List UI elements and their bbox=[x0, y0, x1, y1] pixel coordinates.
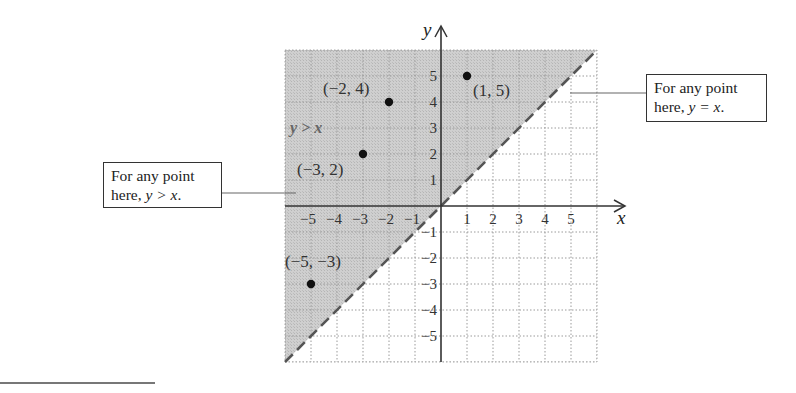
point-label: (−5, −3) bbox=[285, 252, 341, 271]
y-tick-label: 3 bbox=[430, 120, 438, 136]
point-marker bbox=[463, 72, 471, 80]
x-tick-label: 5 bbox=[567, 211, 575, 227]
callout-left-line2: here, y > x. bbox=[111, 185, 215, 204]
callout-box-y-equals-x: For any point here, y = x. bbox=[646, 74, 767, 122]
y-tick-label: 2 bbox=[430, 146, 438, 162]
x-tick-label: 3 bbox=[515, 211, 523, 227]
callout-left-suffix: . bbox=[177, 186, 181, 203]
y-tick-label: −4 bbox=[421, 302, 437, 318]
x-tick-label: −2 bbox=[378, 211, 394, 227]
callout-right-prefix: here, bbox=[654, 98, 688, 115]
y-tick-label: 1 bbox=[430, 172, 438, 188]
y-tick-label: −1 bbox=[421, 224, 437, 240]
x-tick-label: −4 bbox=[326, 211, 342, 227]
y-tick-label: −2 bbox=[421, 250, 437, 266]
point-label: (−3, 2) bbox=[297, 160, 343, 179]
y-tick-label: 5 bbox=[430, 68, 438, 84]
point-label: (−2, 4) bbox=[323, 79, 369, 98]
footnote-divider bbox=[0, 382, 155, 384]
callout-right-line2: here, y = x. bbox=[654, 97, 760, 116]
point-marker bbox=[385, 98, 393, 106]
callout-right-suffix: . bbox=[720, 98, 724, 115]
point-marker bbox=[359, 150, 367, 158]
x-tick-label: 2 bbox=[489, 211, 497, 227]
callout-box-y-greater-than-x: For any point here, y > x. bbox=[103, 162, 222, 208]
x-tick-labels: −5−4−3−2−112345 bbox=[300, 211, 575, 227]
x-tick-label: 4 bbox=[541, 211, 549, 227]
y-tick-label: −5 bbox=[421, 328, 437, 344]
callout-left-line1: For any point bbox=[111, 166, 215, 185]
callout-left-prefix: here, bbox=[111, 186, 145, 203]
y-axis-label: y bbox=[421, 19, 432, 40]
x-tick-label: −5 bbox=[300, 211, 316, 227]
x-tick-label: 1 bbox=[463, 211, 471, 227]
y-tick-label: 4 bbox=[430, 94, 438, 110]
point-label: (1, 5) bbox=[473, 81, 510, 100]
callout-right-line1: For any point bbox=[654, 78, 760, 97]
region-label-y-greater-than-x: y > x bbox=[288, 119, 322, 137]
y-tick-label: −3 bbox=[421, 276, 437, 292]
point-marker bbox=[307, 280, 315, 288]
x-tick-label: −3 bbox=[352, 211, 368, 227]
callout-left-math: y > x bbox=[145, 186, 177, 203]
x-tick-label: −1 bbox=[404, 211, 420, 227]
x-axis-label: x bbox=[616, 207, 626, 228]
callout-right-math: y = x bbox=[688, 98, 720, 115]
